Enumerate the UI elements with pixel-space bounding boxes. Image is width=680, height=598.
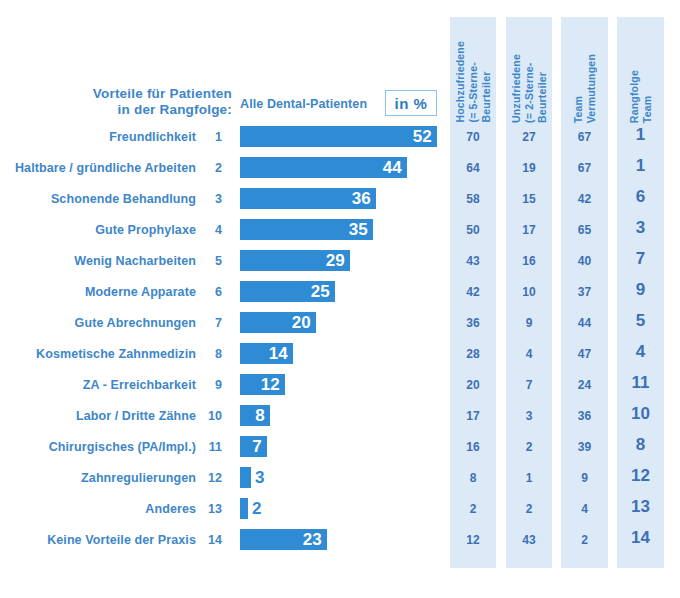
bar-value-label: 52	[413, 126, 432, 147]
row-category-label: Schonende Behandlung	[0, 191, 196, 207]
data-cell: 17	[506, 222, 552, 238]
data-cell: 50	[450, 222, 496, 238]
data-cell: 7	[506, 377, 552, 393]
chart-row: Anderes13222413	[0, 498, 680, 529]
chart-row: Freundlichkeit1527027671	[0, 126, 680, 157]
chart-row: ZA - Erreichbarkeit9122072411	[0, 374, 680, 405]
bar-value-label: 44	[383, 157, 402, 178]
data-cell: 4	[506, 346, 552, 362]
data-cell: 70	[450, 129, 496, 145]
data-cell: 2	[561, 532, 608, 548]
column-header-text: Rangfolge Team	[628, 70, 654, 123]
chart-row: Labor / Dritte Zähne1081733610	[0, 405, 680, 436]
data-cell: 12	[450, 532, 496, 548]
bar-value-label: 2	[252, 498, 262, 519]
bar-value-label: 7	[252, 436, 262, 457]
bar: 44	[240, 157, 407, 178]
data-cell: 47	[561, 346, 608, 362]
row-rank-number: 4	[200, 222, 222, 238]
data-cell: 4	[561, 501, 608, 517]
row-category-label: Anderes	[0, 501, 196, 517]
row-category-label: Haltbare / gründliche Arbeiten	[0, 160, 196, 176]
data-cell: 17	[450, 408, 496, 424]
bar-container: 44	[240, 157, 407, 178]
chart-row: Gute Prophylaxe4355017653	[0, 219, 680, 250]
bar-value-label: 36	[352, 188, 371, 209]
data-cell: 7	[617, 251, 664, 267]
data-cell: 43	[450, 253, 496, 269]
data-cell: 39	[561, 439, 608, 455]
data-cell: 14	[617, 530, 664, 546]
page-title-line-2: in der Rangfolge:	[0, 102, 232, 118]
bar-container: 7	[240, 436, 267, 457]
bar: 25	[240, 281, 335, 302]
data-cell: 43	[506, 532, 552, 548]
data-cell: 9	[506, 315, 552, 331]
bar: 3	[240, 467, 251, 488]
column-header-1: Hochzufriedene (= 5-Sterne- Beurteiler	[450, 17, 496, 123]
page-title-line-1: Vorteile für Patienten	[0, 86, 232, 102]
bar-value-label: 14	[269, 343, 288, 364]
data-cell: 36	[561, 408, 608, 424]
bar-value-label: 23	[303, 529, 322, 550]
data-cell: 12	[617, 468, 664, 484]
data-cell: 5	[617, 313, 664, 329]
bar-container: 52	[240, 126, 437, 147]
bar: 29	[240, 250, 350, 271]
bar-container: 29	[240, 250, 350, 271]
chart-row: Moderne Apparate6254210379	[0, 281, 680, 312]
bar-container: 35	[240, 219, 373, 240]
bar-value-label: 8	[255, 405, 265, 426]
data-cell: 1	[617, 127, 664, 143]
chart-row: Chirurgisches (PA/Impl.)117162398	[0, 436, 680, 467]
bar-container: 25	[240, 281, 335, 302]
data-cell: 36	[450, 315, 496, 331]
data-cell: 42	[561, 191, 608, 207]
bar: 12	[240, 374, 285, 395]
data-cell: 64	[450, 160, 496, 176]
data-cell: 9	[561, 470, 608, 486]
data-cell: 67	[561, 160, 608, 176]
data-cell: 3	[506, 408, 552, 424]
data-cell: 19	[506, 160, 552, 176]
bar-value-label: 12	[261, 374, 280, 395]
row-rank-number: 9	[200, 377, 222, 393]
row-rank-number: 6	[200, 284, 222, 300]
chart-row: Schonende Behandlung3365815426	[0, 188, 680, 219]
chart-page: { "title": { "line1": "Vorteile für Pati…	[0, 0, 680, 598]
row-category-label: Chirurgisches (PA/Impl.)	[0, 439, 196, 455]
row-rank-number: 5	[200, 253, 222, 269]
data-cell: 58	[450, 191, 496, 207]
data-cell: 11	[617, 375, 664, 391]
row-category-label: Labor / Dritte Zähne	[0, 408, 196, 424]
data-cell: 8	[617, 437, 664, 453]
bar-container: 14	[240, 343, 293, 364]
bar-container: 23	[240, 529, 327, 550]
data-cell: 44	[561, 315, 608, 331]
chart-row: Kosmetische Zahnmedizin814284474	[0, 343, 680, 374]
row-category-label: Gute Prophylaxe	[0, 222, 196, 238]
data-cell: 1	[506, 470, 552, 486]
data-cell: 10	[506, 284, 552, 300]
data-cell: 42	[450, 284, 496, 300]
bar: 2	[240, 498, 248, 519]
row-category-label: Wenig Nacharbeiten	[0, 253, 196, 269]
bar-value-label: 25	[311, 281, 330, 302]
bar: 52	[240, 126, 437, 147]
row-category-label: Zahnregulierungen	[0, 470, 196, 486]
bar-value-label: 3	[255, 467, 265, 488]
bar-container: 3	[240, 467, 251, 488]
row-category-label: Freundlichkeit	[0, 129, 196, 145]
data-cell: 37	[561, 284, 608, 300]
bar-value-label: 20	[292, 312, 311, 333]
data-cell: 6	[617, 189, 664, 205]
bar-value-label: 35	[349, 219, 368, 240]
row-category-label: Moderne Apparate	[0, 284, 196, 300]
data-cell: 27	[506, 129, 552, 145]
data-cell: 40	[561, 253, 608, 269]
column-header-3: Team Vermutungen	[561, 17, 608, 123]
row-rank-number: 2	[200, 160, 222, 176]
bar-container: 8	[240, 405, 270, 426]
bar: 23	[240, 529, 327, 550]
bar-container: 2	[240, 498, 248, 519]
